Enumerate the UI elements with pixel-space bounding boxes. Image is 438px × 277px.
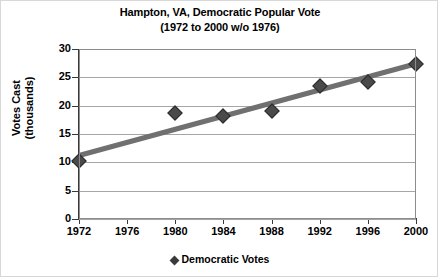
y-axis-tick-label: 25 [45,70,71,82]
x-axis-tick-label: 1984 [203,225,243,237]
x-axis-tick-label: 1976 [107,225,147,237]
x-axis-tick-label: 1996 [348,225,388,237]
y-axis-tick-label: 10 [45,155,71,167]
x-axis-tick-labels: 19721976198019841988199219962000 [79,225,416,241]
legend-label-democratic-votes: Democratic Votes [182,253,270,265]
y-axis-title-line2: (thousands) [23,48,36,168]
plot-frame [79,49,416,219]
y-axis-tick-label: 0 [45,212,71,224]
y-axis-tick-label: 15 [45,127,71,139]
chart-legend: Democratic Votes [1,253,438,265]
x-axis-tick-mark [416,219,417,224]
y-axis-tick-label: 30 [45,42,71,54]
y-axis-tick-label: 20 [45,99,71,111]
plot-area [79,49,416,219]
chart-subtitle: (1972 to 2000 w/o 1976) [1,20,438,35]
diamond-icon [169,256,179,266]
chart-card: Hampton, VA, Democratic Popular Vote (19… [0,0,438,277]
y-axis-tick-label: 5 [45,184,71,196]
y-axis-tick-labels: 051015202530 [41,49,71,219]
y-axis-title-line1: Votes Cast [10,48,23,168]
x-axis-tick-label: 1988 [252,225,292,237]
gridline [79,219,416,220]
chart-title-main: Hampton, VA, Democratic Popular Vote [1,5,438,20]
chart-title: Hampton, VA, Democratic Popular Vote (19… [1,5,438,34]
y-axis-title: Votes Cast (thousands) [10,48,36,168]
x-axis-tick-label: 1980 [155,225,195,237]
x-axis-tick-label: 2000 [396,225,436,237]
x-axis-tick-label: 1992 [300,225,340,237]
x-axis-tick-label: 1972 [59,225,99,237]
